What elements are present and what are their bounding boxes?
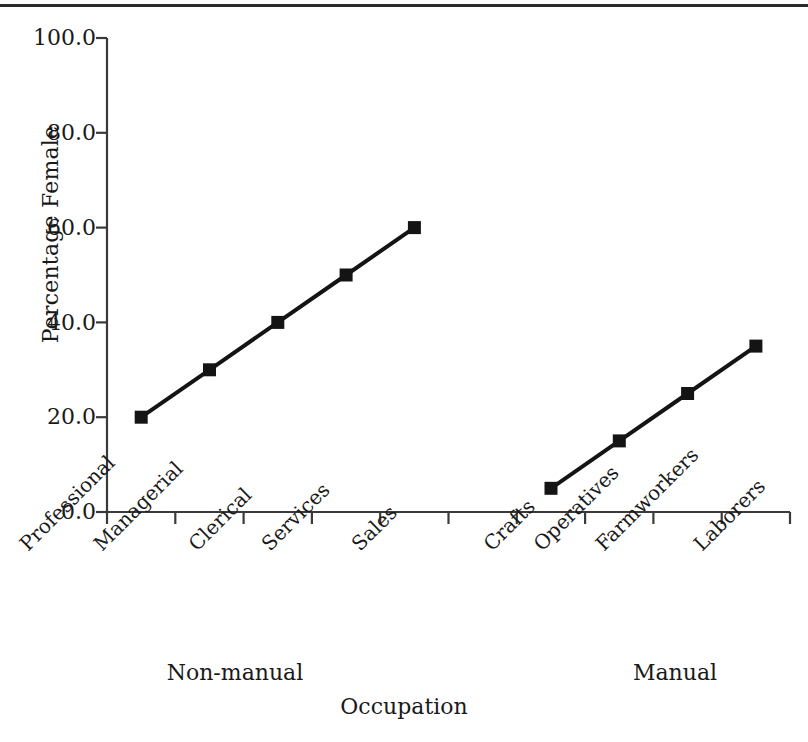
series-line-manual [551,346,756,488]
data-point-services [340,269,353,282]
data-point-farmworkers [681,387,694,400]
data-point-managerial [203,363,216,376]
data-point-laborers [749,340,762,353]
group-label-non-manual: Non-manual [120,660,350,685]
group-label-manual: Manual [560,660,790,685]
y-axis-ticks [96,38,107,512]
data-point-professional [135,411,148,424]
chart-figure: Percentage Female 100.0 80.0 60.0 40.0 2… [0,0,808,742]
data-point-crafts [545,482,558,495]
plot-canvas [0,0,808,742]
data-point-operatives [613,434,626,447]
data-point-clerical [271,316,284,329]
data-point-sales [408,221,421,234]
x-axis-title: Occupation [299,694,509,719]
